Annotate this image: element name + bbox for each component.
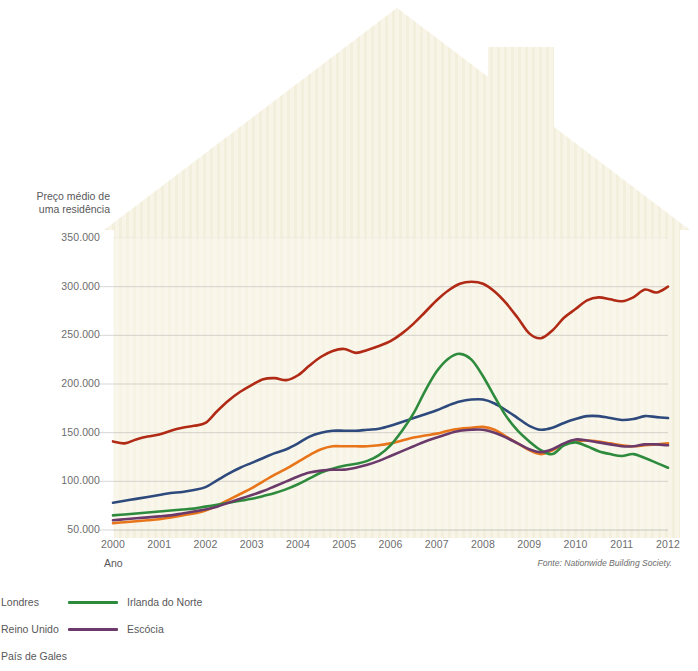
legend-color-swatch bbox=[68, 601, 118, 604]
y-tick-label: 300.000 bbox=[34, 280, 100, 292]
y-axis-title: Preço médio de uma residência bbox=[10, 190, 110, 216]
legend-item-label: Reino Unido bbox=[1, 623, 59, 635]
y-tick-label: 150.000 bbox=[34, 426, 100, 438]
x-tick-label: 2004 bbox=[275, 538, 321, 550]
x-tick-label: 2009 bbox=[506, 538, 552, 550]
x-tick-label: 2001 bbox=[136, 538, 182, 550]
legend-item[interactable]: Londres bbox=[0, 592, 39, 612]
x-axis-title: Ano bbox=[104, 557, 164, 570]
y-tick-label: 350.000 bbox=[34, 231, 100, 243]
x-tick-label: 2000 bbox=[90, 538, 136, 550]
legend-item-label: Irlanda do Norte bbox=[127, 596, 202, 608]
x-tick-label: 2003 bbox=[229, 538, 275, 550]
legend-item-label: Escócia bbox=[127, 623, 164, 635]
y-tick-label: 100.000 bbox=[34, 474, 100, 486]
y-tick-label: 200.000 bbox=[34, 377, 100, 389]
legend-color-swatch bbox=[68, 628, 118, 631]
legend-item[interactable]: Escócia bbox=[68, 619, 164, 639]
legend-item[interactable]: Reino Unido bbox=[0, 619, 59, 639]
y-tick-label: 250.000 bbox=[34, 328, 100, 340]
x-tick-label: 2006 bbox=[368, 538, 414, 550]
chart-legend: LondresReino UnidoPaís de GalesIrlanda d… bbox=[0, 592, 698, 671]
chart-container: Preço médio de uma residência Ano 350.00… bbox=[0, 0, 698, 560]
legend-item[interactable]: País de Gales bbox=[0, 646, 67, 666]
source-note: Fonte: Nationwide Building Society. bbox=[537, 558, 672, 568]
x-tick-label: 2012 bbox=[645, 538, 691, 550]
y-tick-label: 50.000 bbox=[34, 523, 100, 535]
legend-item[interactable]: Irlanda do Norte bbox=[68, 592, 202, 612]
x-tick-label: 2007 bbox=[414, 538, 460, 550]
legend-item-label: País de Gales bbox=[1, 650, 67, 662]
x-tick-label: 2011 bbox=[599, 538, 645, 550]
line-chart-plot bbox=[0, 0, 698, 560]
x-tick-label: 2010 bbox=[553, 538, 599, 550]
legend-item-label: Londres bbox=[1, 596, 39, 608]
x-tick-label: 2002 bbox=[183, 538, 229, 550]
x-tick-label: 2005 bbox=[321, 538, 367, 550]
x-tick-label: 2008 bbox=[460, 538, 506, 550]
